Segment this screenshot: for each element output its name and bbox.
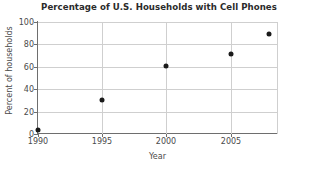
x-tick-mark: [102, 134, 103, 137]
gridline-vertical: [231, 22, 232, 134]
x-tick-mark: [231, 134, 232, 137]
y-axis-label: Percent of households: [5, 15, 14, 127]
chart-title: Percentage of U.S. Households with Cell …: [0, 2, 318, 12]
gridline-horizontal: [38, 89, 277, 90]
x-tick-label: 2005: [221, 137, 241, 146]
gridline-vertical: [102, 22, 103, 134]
data-point: [164, 63, 169, 68]
gridline-vertical: [166, 22, 167, 134]
data-point: [267, 32, 272, 37]
plot-frame-right: [277, 22, 278, 134]
y-tick-mark: [34, 134, 37, 135]
y-tick-label: 80: [24, 40, 34, 49]
x-tick-mark: [38, 134, 39, 137]
x-tick-label: 1995: [92, 137, 112, 146]
y-tick-label: 60: [24, 63, 34, 72]
plot-area: 0204060801001990199520002005: [38, 22, 277, 134]
x-axis-label: Year: [38, 152, 277, 161]
gridline-horizontal: [38, 112, 277, 113]
gridline-horizontal: [38, 22, 277, 23]
y-tick-label: 100: [19, 18, 34, 27]
y-tick-mark: [34, 44, 37, 45]
data-point: [228, 52, 233, 57]
data-point: [100, 98, 105, 103]
y-tick-mark: [34, 67, 37, 68]
gridline-horizontal: [38, 67, 277, 68]
gridline-horizontal: [38, 44, 277, 45]
x-tick-label: 2000: [156, 137, 176, 146]
chart-container: Percentage of U.S. Households with Cell …: [0, 0, 318, 175]
y-tick-label: 40: [24, 85, 34, 94]
y-tick-mark: [34, 22, 37, 23]
y-tick-label: 20: [24, 108, 34, 117]
y-tick-mark: [34, 112, 37, 113]
x-tick-label: 1990: [28, 137, 48, 146]
y-tick-mark: [34, 89, 37, 90]
data-point: [36, 127, 41, 132]
x-tick-mark: [166, 134, 167, 137]
